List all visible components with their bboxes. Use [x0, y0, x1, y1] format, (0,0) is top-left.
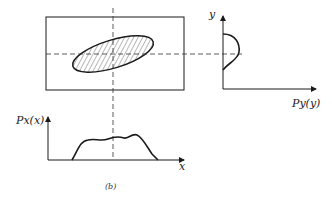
y-axis-label: y: [209, 8, 215, 21]
x-axis-label: x: [179, 160, 185, 173]
diagram-canvas: [0, 0, 332, 200]
py-curve: [223, 34, 239, 70]
px-curve: [72, 135, 158, 160]
py-axis-label: Py(y): [292, 97, 320, 110]
px-axis-label: Px(x): [16, 114, 44, 127]
figure-caption: (b): [105, 182, 116, 191]
